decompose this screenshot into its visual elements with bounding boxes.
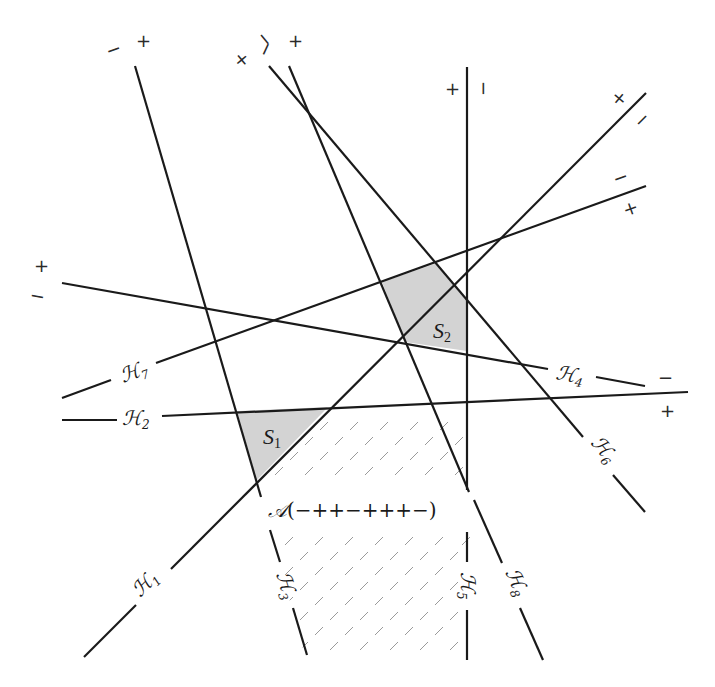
cell-a-hatching: [260, 422, 470, 650]
cell-a-label: 𝒜(−++−+++−): [268, 498, 437, 522]
h6-label: ℋ6: [585, 431, 623, 469]
h5-label: ℋ5: [454, 572, 480, 600]
h1-label: ℋ1: [127, 565, 165, 603]
h5-plus-sign: +: [445, 78, 460, 99]
h4-plus-sign: +: [34, 255, 49, 276]
h1-minus-sign: −: [629, 106, 655, 132]
h3-minus-sign: −: [103, 37, 124, 62]
h8-label: ℋ8: [499, 564, 534, 600]
h5-minus-sign: −: [472, 81, 493, 96]
h7-label: ℋ7: [116, 355, 151, 389]
h4-left-minus-sign: −: [28, 284, 47, 307]
h4-right-minus-sign: −: [658, 367, 673, 388]
h7-plus-sign: +: [620, 196, 641, 221]
hyperplane-arrangement-diagram: − + + − − + + − + − − + + − − + ℋ1 ℋ2 ℋ3…: [0, 0, 715, 687]
hyperplane-h2: [62, 392, 688, 420]
h3-plus-sign: +: [136, 30, 151, 51]
h6-plus-sign: +: [229, 46, 254, 72]
hyperplane-h8: [289, 66, 543, 660]
region-s1: [237, 407, 328, 481]
h1-plus-sign: +: [607, 85, 632, 111]
h4-label: ℋ4: [554, 360, 586, 390]
h2-plus-sign: +: [660, 400, 675, 421]
h8-plus-sign: +: [288, 30, 303, 51]
h2-label: ℋ2: [122, 406, 150, 432]
h7-minus-sign: −: [610, 165, 631, 190]
h3-label: ℋ3: [269, 568, 302, 602]
